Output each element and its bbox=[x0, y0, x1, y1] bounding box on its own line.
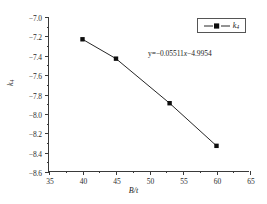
legend-label-k4: k4 bbox=[233, 21, 239, 30]
data-point bbox=[80, 37, 84, 41]
data-point bbox=[214, 144, 218, 148]
y-tick-label: −8.6 bbox=[29, 169, 42, 178]
x-axis-title: B/t bbox=[0, 186, 267, 195]
x-tick-label: 60 bbox=[214, 177, 222, 186]
y-tick-label: −8.4 bbox=[29, 149, 42, 158]
data-point bbox=[167, 101, 171, 105]
x-tick-label: 50 bbox=[147, 177, 155, 186]
equation-lead: y=−0.05511 bbox=[148, 49, 184, 58]
plot-area: −7.0−7.2−7.4−7.6−7.8−8.0−8.2−8.4−8.6 354… bbox=[48, 17, 249, 172]
y-axis-title-subscript: 4 bbox=[9, 80, 15, 83]
x-tick-label: 35 bbox=[46, 177, 54, 186]
y-tick-label: −7.0 bbox=[29, 14, 42, 23]
equation-tail: −4.9954 bbox=[187, 49, 212, 58]
x-tick-label: 65 bbox=[247, 177, 255, 186]
y-axis-title-base: k bbox=[6, 82, 15, 86]
y-tick-label: −8.2 bbox=[29, 130, 42, 139]
x-tick-label: 55 bbox=[180, 177, 188, 186]
series-k4 bbox=[49, 17, 250, 172]
y-tick-label: −7.4 bbox=[29, 52, 42, 61]
y-tick-label: −8.0 bbox=[29, 110, 42, 119]
fit-equation-annotation: y=−0.05511x−4.9954 bbox=[148, 49, 212, 58]
y-axis-title: k4 bbox=[6, 80, 15, 86]
x-tick-label: 45 bbox=[113, 177, 121, 186]
data-point bbox=[114, 56, 118, 60]
legend-line-marker-icon bbox=[204, 22, 230, 30]
legend-label-subscript: 4 bbox=[236, 24, 239, 30]
y-tick-label: −7.8 bbox=[29, 91, 42, 100]
x-tick-label: 40 bbox=[80, 177, 88, 186]
chart-figure: −7.0−7.2−7.4−7.6−7.8−8.0−8.2−8.4−8.6 354… bbox=[0, 0, 267, 204]
y-tick-label: −7.2 bbox=[29, 33, 42, 42]
legend-box[interactable]: k4 bbox=[197, 18, 246, 33]
x-tick: 65 bbox=[250, 171, 251, 175]
y-tick-label: −7.6 bbox=[29, 72, 42, 81]
